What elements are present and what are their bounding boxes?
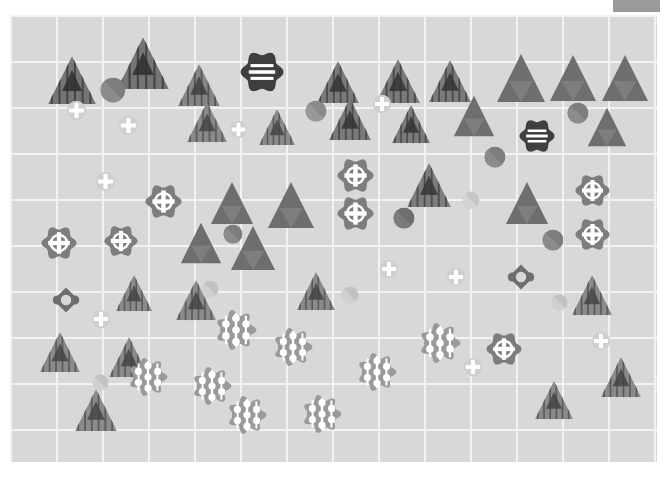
gridline-horizontal bbox=[10, 199, 657, 201]
shape-four-petal-diamond bbox=[508, 264, 534, 290]
shape-striped-triangle bbox=[534, 380, 574, 420]
shape-flower-cross bbox=[41, 225, 77, 261]
shape-flower-dots bbox=[215, 309, 257, 351]
shape-flower-cross bbox=[104, 224, 138, 258]
shape-solid-triangle bbox=[549, 54, 597, 102]
shape-solid-triangle bbox=[601, 54, 649, 102]
shape-solid-triangle bbox=[180, 222, 222, 264]
shape-half-circle bbox=[92, 374, 109, 391]
shape-solid-triangle bbox=[496, 53, 546, 103]
shape-pale-cross-circle bbox=[591, 331, 611, 351]
shape-solid-triangle bbox=[587, 107, 627, 147]
shape-solid-triangle bbox=[505, 181, 549, 225]
shape-solid-triangle bbox=[210, 181, 254, 225]
shape-pale-cross-circle bbox=[446, 267, 466, 287]
shape-striped-triangle bbox=[74, 388, 118, 432]
shape-striped-triangle bbox=[258, 108, 296, 146]
shape-solid-triangle bbox=[453, 95, 495, 137]
shape-flower-cross bbox=[337, 157, 374, 194]
shape-striped-triangle bbox=[115, 274, 153, 312]
shape-striped-triangle bbox=[391, 104, 431, 144]
shape-flower-dots bbox=[227, 395, 267, 435]
shape-half-circle bbox=[542, 229, 564, 251]
shape-half-circle bbox=[100, 77, 126, 103]
corner-bar bbox=[613, 0, 660, 12]
shape-striped-triangle bbox=[600, 356, 642, 398]
shape-striped-triangle bbox=[296, 271, 336, 311]
shape-half-circle bbox=[305, 100, 327, 122]
shape-flower-stripes bbox=[240, 50, 284, 94]
shape-flower-dots bbox=[192, 366, 232, 406]
shape-striped-triangle bbox=[39, 331, 81, 373]
shape-pale-cross-circle bbox=[463, 357, 483, 377]
shape-half-circle bbox=[551, 294, 568, 311]
shape-plot-area bbox=[10, 15, 657, 462]
shape-pale-cross-circle bbox=[118, 115, 139, 136]
shape-half-circle bbox=[341, 286, 359, 304]
gridline-horizontal bbox=[10, 15, 657, 17]
shape-flower-dots bbox=[302, 394, 342, 434]
shape-flower-cross bbox=[337, 195, 374, 232]
shape-half-circle bbox=[484, 146, 506, 168]
shape-pale-cross-circle bbox=[229, 120, 248, 139]
shape-flower-dots bbox=[419, 322, 461, 364]
shape-pale-cross-circle bbox=[66, 100, 87, 121]
shape-half-circle bbox=[462, 191, 480, 209]
shape-half-circle bbox=[567, 102, 589, 124]
shape-pale-cross-circle bbox=[372, 94, 392, 114]
shape-flower-dots bbox=[128, 357, 168, 397]
shape-flower-cross bbox=[145, 183, 182, 220]
shape-flower-cross bbox=[486, 331, 522, 367]
shape-striped-triangle bbox=[406, 162, 452, 208]
gridline-vertical bbox=[424, 15, 426, 462]
shape-solid-triangle bbox=[267, 181, 315, 229]
gridline-horizontal bbox=[10, 153, 657, 155]
gridline-vertical bbox=[654, 15, 656, 462]
screenshot-canvas bbox=[0, 0, 667, 477]
shape-flower-dots bbox=[273, 327, 313, 367]
gridline-vertical bbox=[10, 15, 12, 462]
shape-striped-triangle bbox=[328, 97, 372, 141]
shape-pale-cross-circle bbox=[379, 259, 399, 279]
shape-striped-triangle bbox=[186, 101, 228, 143]
shape-half-circle bbox=[393, 207, 415, 229]
shape-striped-triangle bbox=[571, 274, 613, 316]
shape-flower-cross bbox=[575, 173, 610, 208]
gridline-vertical bbox=[286, 15, 288, 462]
shape-half-circle bbox=[201, 280, 219, 298]
shape-flower-dots bbox=[357, 352, 397, 392]
shape-striped-triangle bbox=[47, 55, 97, 105]
shape-four-petal-diamond bbox=[53, 287, 79, 313]
shape-solid-triangle bbox=[230, 225, 276, 271]
shape-flower-cross bbox=[575, 217, 610, 252]
shape-pale-cross-circle bbox=[95, 171, 116, 192]
shape-pale-cross-circle bbox=[91, 309, 111, 329]
shape-flower-stripes bbox=[519, 118, 555, 154]
